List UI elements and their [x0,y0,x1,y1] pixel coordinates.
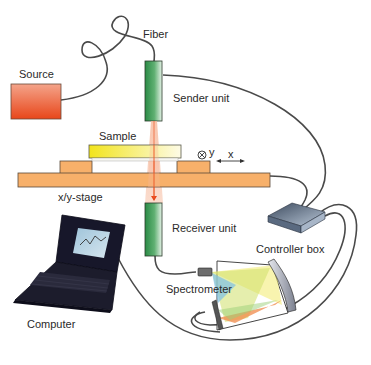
fiber-cable [61,16,155,100]
measurement-setup-diagram [0,0,371,365]
controller-box [268,203,325,233]
sender-unit [145,61,162,121]
label-controller-box: Controller box [256,243,324,255]
label-computer: Computer [27,318,75,330]
receiver-spectrometer-cable [155,256,196,274]
xy-stage [18,173,270,187]
label-spectrometer: Spectrometer [166,283,232,295]
label-receiver-unit: Receiver unit [172,222,236,234]
label-xy-stage: x/y-stage [58,191,103,203]
label-axis-x: x [228,148,234,160]
receiver-unit [145,203,162,256]
source-box [11,84,61,119]
label-axis-y: y [209,146,215,158]
stage-support-left [60,161,92,174]
label-fiber: Fiber [143,28,168,40]
spectrometer-entrance-slit [198,268,212,276]
sample [89,145,181,158]
label-sample: Sample [99,130,136,142]
label-sender-unit: Sender unit [173,92,229,104]
stage-support-right [177,161,210,174]
computer-laptop [13,215,125,313]
label-source: Source [19,68,54,80]
laptop-screen [73,228,110,258]
